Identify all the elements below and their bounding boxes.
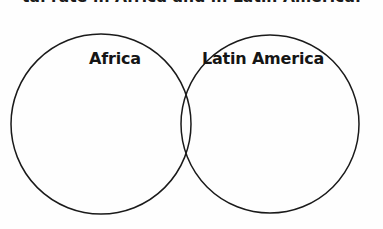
venn-label-africa: Africa bbox=[89, 51, 141, 67]
venn-svg bbox=[0, 0, 383, 229]
venn-label-latin-america: Latin America bbox=[202, 51, 324, 67]
venn-area bbox=[0, 0, 383, 229]
venn-diagram-screenshot: tal rate in Africa and in Latin America.… bbox=[0, 0, 383, 229]
